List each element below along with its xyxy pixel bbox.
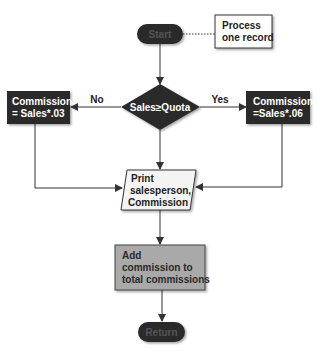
print-line-1: Print [131,173,154,184]
commission-low-line-1: Commission [12,96,72,107]
decision-label: Sales≥Quota [130,102,191,113]
start-label: Start [149,29,172,40]
print-io: Print salesperson, Commission [121,170,196,210]
commission-high-line-2: =Sales*.06 [253,108,303,119]
flowchart: Start Process one record Sales≥Quota No … [0,0,317,351]
start-terminator: Start [137,24,183,44]
edge-label-no: No [90,94,103,105]
commission-low-line-2: = Sales*.03 [12,108,65,119]
decision-diamond: Sales≥Quota [121,84,200,130]
return-label: Return [145,327,177,338]
return-terminator: Return [138,322,185,342]
note-line-1: Process [222,20,261,31]
add-line-3: total commissions [122,274,210,285]
commission-high-line-1: Commission [253,96,313,107]
add-line-1: Add [122,250,141,261]
add-commission-box: Add commission to total commissions [115,245,210,290]
commission-low-box: Commission = Sales*.03 [7,91,72,124]
edge-left-to-print [35,124,122,188]
note-annotation: Process one record [215,15,274,48]
print-line-2: salesperson, [130,185,191,196]
print-line-3: Commission [128,197,188,208]
note-line-2: one record [222,32,274,43]
edge-label-yes: Yes [211,94,229,105]
edge-right-to-print [196,124,282,187]
commission-high-box: Commission =Sales*.06 [246,91,313,124]
add-line-2: commission to [122,262,193,273]
